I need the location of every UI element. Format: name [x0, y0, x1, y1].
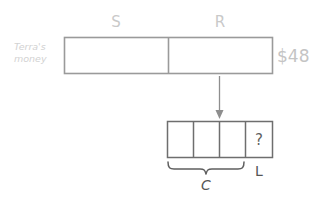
brace-c-shape [168, 162, 244, 174]
cell-unknown-label: ? [255, 131, 263, 149]
brace-c-label: C [201, 177, 211, 193]
down-arrow-head [216, 110, 224, 119]
diagram-canvas: S R Terra's money $48 ? C L [0, 0, 328, 202]
brace-l-label: L [255, 163, 263, 179]
tape-diagram: S R Terra's money $48 ? C L [0, 0, 328, 202]
top-bar-total-label: $48 [277, 46, 309, 66]
row-label-line-2: money [14, 53, 47, 64]
top-bar-segment-label-s: S [111, 13, 121, 31]
top-bar-segment-label-r: R [215, 13, 225, 31]
row-label-line-1: Terra's [14, 41, 46, 52]
